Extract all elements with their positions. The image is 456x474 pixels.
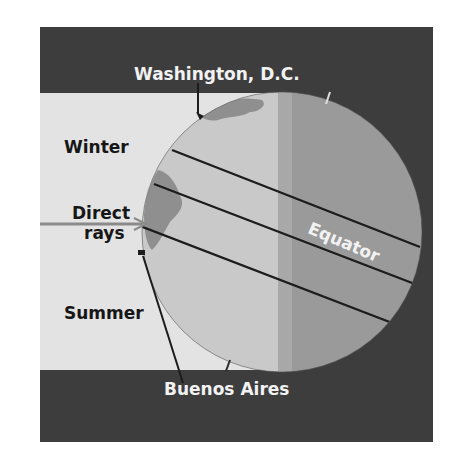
label-washington-dc: Washington, D.C. [134,66,300,83]
seasons-diagram: Washington, D.C. Winter Direct rays Summ… [0,0,456,474]
label-summer: Summer [64,305,144,322]
label-winter: Winter [64,139,129,156]
label-direct: Direct [72,205,130,222]
label-buenos-aires: Buenos Aires [164,381,289,398]
label-rays: rays [84,225,125,242]
buenos-aires-marker [138,250,145,255]
